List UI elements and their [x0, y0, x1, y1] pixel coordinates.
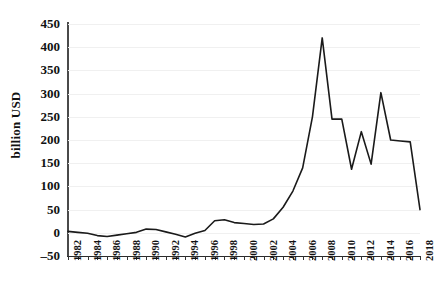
x-axis-tick-mark: [283, 256, 284, 260]
x-axis-tick-label: 2000: [248, 240, 259, 261]
y-axis-tick-label: 450: [2, 16, 60, 32]
series-path: [68, 38, 420, 237]
x-axis-tick-label: 1996: [209, 240, 220, 261]
y-axis-tick-label: 50: [2, 202, 60, 218]
x-axis-tick-mark: [68, 256, 69, 260]
y-axis-tick-label: 250: [2, 109, 60, 125]
x-axis-tick-label: 1988: [131, 240, 142, 261]
y-axis-tick-label: 300: [2, 86, 60, 102]
y-axis-tick-label: 150: [2, 155, 60, 171]
x-axis-tick-mark: [127, 256, 128, 260]
x-axis-tick-label: 2008: [326, 240, 337, 261]
x-axis-tick-label: 2018: [424, 240, 435, 261]
x-axis-tick-mark: [166, 256, 167, 260]
x-axis-tick-label: 2002: [268, 240, 279, 261]
x-axis-tick-mark: [381, 256, 382, 260]
x-axis-tick-label: 2014: [385, 240, 396, 261]
x-axis-tick-mark: [244, 256, 245, 260]
x-axis-tick-label: 2004: [287, 240, 298, 261]
x-axis-tick-label: 2010: [346, 240, 357, 261]
x-axis-tick-mark: [342, 256, 343, 260]
y-axis-tick-label: 200: [2, 132, 60, 148]
x-axis-tick-label: 2012: [365, 240, 376, 261]
y-axis-tick-label: –50: [2, 248, 60, 264]
y-axis-title-text: billion USD: [8, 92, 24, 159]
x-axis-tick-mark: [322, 256, 323, 260]
x-axis-tick-mark: [205, 256, 206, 260]
x-axis-tick-mark: [185, 256, 186, 260]
x-axis-tick-label: 1990: [150, 240, 161, 261]
x-axis-tick-label: 1992: [170, 240, 181, 261]
plot-area: [68, 24, 420, 256]
x-axis-tick-mark: [400, 256, 401, 260]
x-axis-tick-label: 1982: [72, 240, 83, 261]
x-axis-tick-label: 1984: [92, 240, 103, 261]
y-axis-tick-label: 400: [2, 39, 60, 55]
x-axis-tick-mark: [107, 256, 108, 260]
x-axis-tick-label: 2006: [307, 240, 318, 261]
x-axis-tick-label: 1994: [189, 240, 200, 261]
x-axis-tick-label: 1986: [111, 240, 122, 261]
y-axis-tick-label: 100: [2, 178, 60, 194]
x-axis-tick-mark: [303, 256, 304, 260]
x-axis-tick-mark: [224, 256, 225, 260]
x-axis-tick-mark: [146, 256, 147, 260]
x-axis-tick-mark: [420, 256, 421, 260]
x-axis-tick-label: 2016: [404, 240, 415, 261]
line-series: [68, 24, 420, 256]
y-axis-tick-label: 350: [2, 62, 60, 78]
y-axis-tick-label: 0: [2, 225, 60, 241]
x-axis-tick-mark: [88, 256, 89, 260]
x-axis-tick-label: 1998: [228, 240, 239, 261]
x-axis-tick-mark: [264, 256, 265, 260]
x-axis-tick-mark: [361, 256, 362, 260]
